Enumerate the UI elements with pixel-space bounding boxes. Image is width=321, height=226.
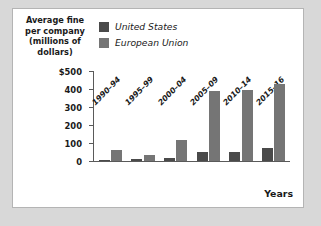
bar-group — [257, 84, 290, 161]
legend-label-united-states: United States — [115, 21, 177, 32]
y-axis-title: Average fine per company (millions of do… — [17, 15, 93, 57]
y-axis-tick: 0 — [89, 161, 94, 162]
y-axis-tick: 300 — [89, 107, 94, 108]
y-axis-tick: 400 — [89, 89, 94, 90]
bar-united-states — [229, 152, 240, 161]
y-axis-tick-label: 400 — [65, 85, 82, 95]
y-axis-tick: $500 — [89, 71, 94, 72]
chart-legend: United States European Union — [99, 21, 188, 53]
bar-group — [159, 140, 192, 161]
bar-united-states — [99, 160, 110, 161]
bar-european-union — [242, 90, 253, 161]
bar-european-union — [144, 155, 155, 161]
legend-item-european-union: European Union — [99, 37, 188, 48]
y-axis-tick: 100 — [89, 143, 94, 144]
bar-united-states — [197, 152, 208, 161]
bar-group — [192, 91, 225, 161]
bar-group — [94, 150, 127, 161]
plot-area: 0100200300400$5001990–941995–992000–0420… — [93, 71, 290, 162]
bar-group — [127, 155, 160, 161]
y-axis-tick-label: 300 — [65, 103, 82, 113]
bar-european-union — [209, 91, 220, 161]
x-axis-tick-label: 1990–94 — [91, 75, 123, 107]
legend-item-united-states: United States — [99, 21, 188, 32]
x-axis-tick-label: 1995–99 — [123, 75, 155, 107]
x-axis-title: Years — [264, 188, 293, 199]
bar-group — [225, 90, 258, 161]
bar-united-states — [131, 159, 142, 161]
y-axis-tick-label: 200 — [65, 121, 82, 131]
y-axis-tick: 200 — [89, 125, 94, 126]
legend-swatch-united-states — [99, 22, 109, 32]
y-axis-tick-label: $500 — [59, 67, 82, 77]
bar-united-states — [164, 158, 175, 161]
bar-european-union — [111, 150, 122, 161]
bar-european-union — [176, 140, 187, 161]
legend-label-european-union: European Union — [115, 37, 188, 48]
y-axis-tick-label: 0 — [76, 157, 82, 167]
bar-united-states — [262, 148, 273, 161]
legend-swatch-european-union — [99, 38, 109, 48]
chart-figure: Average fine per company (millions of do… — [12, 8, 304, 208]
y-axis-tick-label: 100 — [65, 139, 82, 149]
x-axis-tick-label: 2000–04 — [156, 75, 188, 107]
bar-european-union — [274, 84, 285, 161]
